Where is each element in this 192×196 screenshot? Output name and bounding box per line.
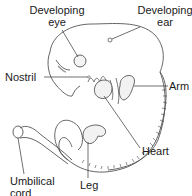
label-developing-ear: Developing ear: [130, 4, 192, 28]
label-leg: Leg: [80, 179, 98, 191]
umbilical-pointer: [18, 138, 24, 174]
ear-shape: [108, 38, 112, 42]
heart-pointer: [104, 96, 140, 148]
label-line: Developing: [22, 4, 92, 16]
arm-bud-shape: [119, 75, 134, 100]
label-developing-eye: Developing eye: [22, 4, 92, 28]
label-heart: Heart: [142, 145, 169, 157]
eye-pointer: [62, 30, 78, 57]
ear-pointer: [112, 27, 140, 39]
leg-bud-shape: [83, 125, 106, 144]
label-line: eye: [22, 16, 92, 28]
label-line: cord: [10, 187, 55, 196]
label-line: ear: [130, 16, 192, 28]
embryo-illustration: [0, 0, 192, 196]
eye-shape: [74, 55, 86, 67]
label-line: Developing: [130, 4, 192, 16]
label-line: Umbilical: [10, 175, 55, 187]
label-umbilical-cord: Umbilical cord: [10, 175, 55, 196]
heart-shape: [94, 80, 112, 99]
label-arm: Arm: [169, 80, 189, 92]
label-nostril: Nostril: [5, 71, 36, 83]
